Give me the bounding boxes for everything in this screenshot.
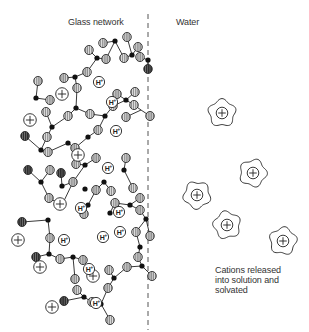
oxygen-atom-icon — [46, 95, 55, 104]
oxygen-atom-icon — [104, 283, 113, 292]
solvated-cation-icon — [213, 211, 240, 239]
oxygen-atom-icon — [134, 252, 143, 261]
oxygen-atom-icon — [131, 87, 140, 96]
silicon-node-icon — [59, 183, 64, 188]
oxygen-atom-icon — [21, 131, 30, 140]
oxygen-atom-icon — [57, 168, 66, 177]
silicon-node-icon — [112, 38, 117, 43]
cation-icon — [56, 88, 69, 101]
silicon-node-icon — [85, 134, 90, 139]
oxygen-atom-icon — [146, 231, 155, 240]
oxygen-atom-icon — [83, 67, 92, 76]
oxygen-atom-icon — [43, 132, 52, 141]
oxygen-atom-icon — [102, 54, 111, 63]
svg-text:+: + — [100, 78, 103, 83]
svg-text:+: + — [104, 233, 107, 238]
silicon-node-icon — [65, 140, 70, 145]
oxygen-atom-icon — [71, 274, 80, 283]
silicon-node-icon — [72, 74, 77, 79]
silicon-node-icon — [121, 167, 126, 172]
oxygen-atom-icon — [64, 111, 73, 120]
solvated-cation-icon — [240, 159, 267, 187]
oxygen-atom-icon — [24, 165, 33, 174]
oxygen-atom-icon — [99, 38, 108, 47]
hydrogen-ion-icon: H+ — [58, 234, 69, 245]
cation-icon — [12, 234, 25, 247]
oxygen-atom-icon — [73, 285, 82, 294]
silicon-node-icon — [38, 179, 43, 184]
water-label: Water — [176, 17, 199, 27]
oxygen-atom-icon — [144, 64, 153, 73]
oxygen-atom-icon — [123, 262, 132, 271]
cation-icon — [34, 261, 47, 274]
silicon-node-icon — [143, 216, 148, 221]
silicon-node-icon — [46, 251, 51, 256]
svg-text:+: + — [113, 98, 116, 103]
cation-icon — [277, 235, 289, 247]
hydrogen-ion-icon: H+ — [93, 76, 104, 87]
silicon-node-icon — [139, 263, 144, 268]
hydrogen-ion-icon: H+ — [83, 263, 94, 274]
oxygen-atom-icon — [79, 255, 88, 264]
oxygen-atom-icon — [73, 83, 82, 92]
oxygen-atom-icon — [105, 265, 114, 274]
solvated-cations-caption: Cations released into solution and solva… — [215, 265, 309, 295]
oxygen-atom-icon — [136, 193, 145, 202]
oxygen-atom-icon — [130, 100, 139, 109]
silicon-node-icon — [82, 162, 87, 167]
silicon-node-icon — [73, 105, 78, 110]
svg-text:+: + — [109, 164, 112, 169]
oxygen-atom-icon — [32, 252, 41, 261]
silicon-node-icon — [129, 52, 134, 57]
oxygen-atom-icon — [46, 233, 55, 242]
oxygen-atom-icon — [136, 52, 145, 61]
silicon-node-icon — [127, 202, 132, 207]
silicon-node-icon — [70, 254, 75, 259]
silicon-node-icon — [38, 147, 43, 152]
hydrogen-ion-icon: H+ — [90, 297, 101, 308]
cation-icon — [24, 114, 37, 127]
oxygen-atom-icon — [120, 53, 129, 62]
cation-icon — [72, 149, 85, 162]
oxygen-atom-icon — [56, 254, 65, 263]
silicon-node-icon — [94, 55, 99, 60]
solvated-cation-icon — [183, 182, 211, 209]
oxygen-atom-icon — [129, 183, 138, 192]
svg-text:+: + — [90, 265, 93, 270]
silicon-node-icon — [123, 97, 128, 102]
cation-icon — [247, 167, 259, 179]
oxygen-atom-icon — [134, 42, 143, 51]
oxygen-atom-icon — [136, 205, 145, 214]
hydrogen-ion-icon: H+ — [102, 162, 113, 173]
oxygen-atom-icon — [85, 45, 94, 54]
caption-line: solvated — [215, 285, 309, 295]
oxygen-atom-icon — [122, 112, 131, 121]
oxygen-atom-icon — [92, 185, 101, 194]
oxygen-atom-icon — [107, 186, 116, 195]
oxygen-atoms — [18, 32, 157, 324]
glass-network-label: Glass network — [68, 17, 124, 27]
svg-text:+: + — [65, 236, 68, 241]
silicon-node-icon — [33, 95, 38, 100]
cation-icon — [191, 189, 203, 201]
silicon-node-icon — [145, 57, 150, 62]
caption-line: Cations released — [215, 265, 309, 275]
solvated-cations — [183, 99, 297, 255]
oxygen-atom-icon — [123, 32, 132, 41]
oxygen-atom-icon — [60, 296, 69, 305]
silicon-node-icon — [137, 244, 142, 249]
solvated-cation-icon — [270, 227, 298, 255]
network-cations — [12, 88, 100, 314]
hydrogen-ion-icon: H+ — [97, 231, 108, 242]
oxygen-atom-icon — [18, 217, 27, 226]
solvated-cation-icon — [208, 99, 236, 126]
oxygen-atom-icon — [148, 271, 157, 280]
svg-text:+: + — [120, 208, 123, 213]
caption-line: into solution and — [215, 275, 309, 285]
silicon-node-icon — [81, 294, 86, 299]
oxygen-atom-icon — [122, 153, 131, 162]
oxygen-atom-icon — [69, 177, 78, 186]
cation-icon — [46, 301, 59, 314]
oxygen-atom-icon — [92, 153, 101, 162]
silicon-node-icon — [45, 217, 50, 222]
